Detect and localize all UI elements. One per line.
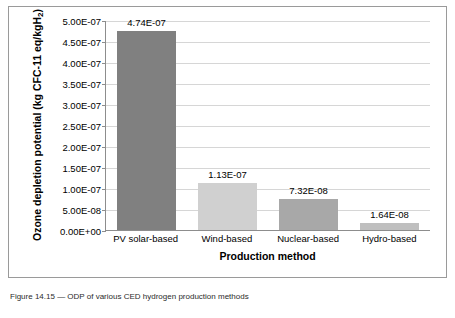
x-tick-label-pv-solar-based: PV solar-based [105, 233, 186, 244]
chart-figure: Ozone depletion potential (kg CFC-11 eq/… [0, 0, 455, 318]
bar-group-wind-based: 1.13E-07 [187, 21, 268, 230]
y-tick-label: 2.00E-07 [62, 142, 101, 153]
bar-hydro-based[interactable]: 1.64E-08 [360, 223, 418, 230]
x-tick-label-hydro-based: Hydro-based [349, 233, 430, 244]
y-tick-label: 4.00E-07 [62, 58, 101, 69]
y-tick-label: 5.00E-08 [62, 205, 101, 216]
x-axis-tick-labels: PV solar-based Wind-based Nuclear-based … [105, 233, 430, 249]
bar-group-pv-solar-based: 4.74E-07 [106, 21, 187, 230]
bar-value-label: 7.32E-08 [279, 185, 337, 196]
x-tick-label-nuclear-based: Nuclear-based [268, 233, 349, 244]
bar-group-nuclear-based: 7.32E-08 [268, 21, 349, 230]
figure-caption: Figure 14.15 — ODP of various CED hydrog… [10, 292, 450, 301]
bar-value-label: 4.74E-07 [117, 17, 175, 28]
bar-group-hydro-based: 1.64E-08 [349, 21, 430, 230]
y-axis-title-subscript: 2 [36, 13, 45, 17]
chart-plot-frame: Ozone depletion potential (kg CFC-11 eq/… [8, 6, 447, 278]
y-tick-label: 1.00E-07 [62, 184, 101, 195]
y-axis-title-main: Ozone depletion potential (kg CFC-11 eq/… [31, 17, 43, 241]
plot-area: 5.00E-07 4.50E-07 4.00E-07 3.50E-07 3.00… [105, 21, 430, 231]
y-tick-label: 1.50E-07 [62, 163, 101, 174]
bar-value-label: 1.64E-08 [360, 209, 418, 220]
y-axis-title-close: ) [31, 9, 43, 13]
y-axis-title: Ozone depletion potential (kg CFC-11 eq/… [31, 11, 45, 241]
x-tick-label-wind-based: Wind-based [186, 233, 267, 244]
y-tick-label: 2.50E-07 [62, 121, 101, 132]
bar-value-label: 1.13E-07 [198, 169, 256, 180]
y-tick-label: 4.50E-07 [62, 37, 101, 48]
y-tick-label: 3.50E-07 [62, 79, 101, 90]
y-tick-mark [102, 231, 106, 232]
bar-wind-based[interactable]: 1.13E-07 [198, 183, 256, 230]
y-tick-label: 5.00E-07 [62, 16, 101, 27]
bar-series: 4.74E-07 1.13E-07 7.32E-08 1.64E-08 [106, 21, 430, 230]
bar-pv-solar-based[interactable]: 4.74E-07 [117, 31, 175, 230]
y-tick-label: 0.00E+00 [60, 226, 101, 237]
bar-nuclear-based[interactable]: 7.32E-08 [279, 199, 337, 230]
x-axis-title: Production method [105, 250, 430, 262]
y-tick-label: 3.00E-07 [62, 100, 101, 111]
